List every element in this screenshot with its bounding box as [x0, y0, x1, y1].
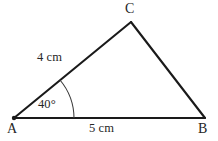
vertex-label-a: A [7, 122, 17, 136]
angle-label-a: 40° [38, 98, 56, 111]
side-length-label-ac: 4 cm [37, 51, 62, 64]
vertex-dot-a [12, 116, 16, 120]
vertex-label-c: C [125, 2, 135, 16]
side-cb-line [131, 22, 205, 118]
triangle-svg-canvas [0, 0, 218, 141]
vertex-label-b: B [198, 122, 208, 136]
side-length-label-ab: 5 cm [89, 122, 114, 135]
angle-arc-a [60, 80, 74, 118]
triangle-figure: A B C 4 cm 5 cm 40° [0, 0, 218, 141]
